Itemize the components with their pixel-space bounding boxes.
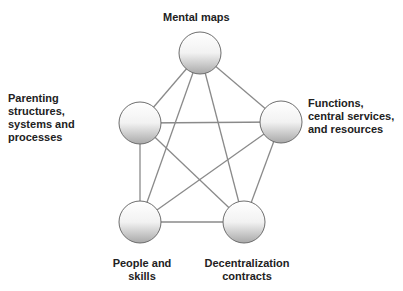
nodes [119,32,302,243]
node-functions [260,101,302,143]
node-people [119,201,161,243]
edges [140,53,281,222]
label-mental-maps: Mental maps [163,11,230,24]
edge-parenting-decentral [140,123,244,222]
edge-functions-people [140,122,281,222]
label-decentralization: Decentralization contracts [200,257,294,283]
node-parenting [119,102,161,144]
label-people: People and skills [112,257,172,283]
node-mental [179,32,221,74]
label-parenting: Parenting structures, systems and proces… [8,92,75,144]
node-decentral [223,201,265,243]
network-diagram [0,0,403,291]
label-functions: Functions, central services, and resourc… [308,97,394,136]
edge-mental-decentral [200,53,244,222]
